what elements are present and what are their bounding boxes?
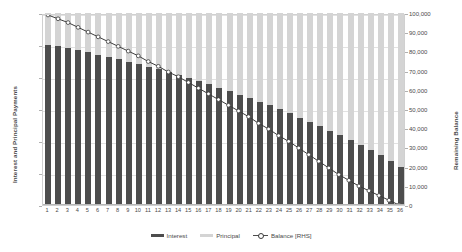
y-axis-right-tick-mark [405, 52, 408, 53]
balance-marker [176, 75, 180, 79]
y-axis-right-tick-mark [405, 187, 408, 188]
balance-marker [247, 115, 251, 119]
balance-marker [387, 198, 391, 202]
y-axis-right-tick-mark [405, 72, 408, 73]
y-axis-right-tick-mark [405, 129, 408, 130]
balance-marker [237, 109, 241, 113]
balance-marker [267, 127, 271, 131]
balance-marker [126, 49, 130, 53]
y-axis-right-tick-mark [405, 14, 408, 15]
plot-area [42, 14, 405, 206]
legend-swatch-interest-icon [151, 234, 164, 237]
legend-label: Interest [167, 232, 188, 239]
balance-marker [297, 146, 301, 150]
y-axis-right-title: Remaining Balance [452, 111, 459, 170]
balance-marker [76, 25, 80, 29]
balance-marker [287, 139, 291, 143]
y-axis-right-tick-label: 70,000 [409, 69, 462, 75]
y-axis-right-tick-mark [405, 148, 408, 149]
balance-marker [46, 15, 50, 17]
y-axis-right-tick-label: 80,000 [409, 49, 462, 55]
balance-marker [327, 166, 331, 170]
balance-marker [136, 54, 140, 58]
balance-marker [197, 86, 201, 90]
legend-label: Principal [216, 232, 240, 239]
balance-marker [106, 40, 110, 44]
balance-marker [116, 44, 120, 48]
x-axis-tick-label: 36 [392, 208, 408, 214]
balance-marker [166, 70, 170, 74]
y-axis-left-title: Interest and Principal Payments [11, 86, 18, 183]
balance-marker [156, 64, 160, 68]
y-axis-right-tick-mark [405, 33, 408, 34]
balance-marker [317, 159, 321, 163]
balance-marker [277, 134, 281, 138]
y-axis-right-tick-mark [405, 110, 408, 111]
y-axis-right-tick-label: 30,000 [409, 145, 462, 151]
y-axis-right-tick-mark [405, 91, 408, 92]
balance-marker [257, 121, 261, 125]
y-axis-right-tick-label: 20,000 [409, 165, 462, 171]
y-axis-right-tick-label: 50,000 [409, 107, 462, 113]
y-axis-right-tick-label: 10,000 [409, 184, 462, 190]
y-axis-right-tick-mark [405, 206, 408, 207]
balance-marker [66, 21, 70, 25]
balance-marker [146, 60, 150, 64]
y-axis-right-tick-label: 0 [409, 203, 462, 209]
balance-marker [337, 173, 341, 177]
balance-marker [96, 35, 100, 39]
balance-marker [367, 189, 371, 193]
y-axis-right-tick-label: 40,000 [409, 126, 462, 132]
y-axis-right-tick-label: 90,000 [409, 30, 462, 36]
legend-item[interactable]: Interest [151, 232, 188, 239]
balance-line [48, 15, 399, 205]
y-axis-left-tick-mark [39, 206, 42, 207]
balance-marker [86, 30, 90, 34]
balance-marker [56, 17, 60, 21]
legend-item[interactable]: Balance [RHS] [253, 232, 312, 239]
y-axis-right-tick-label: 60,000 [409, 88, 462, 94]
y-axis-right-tick-mark [405, 168, 408, 169]
balance-marker [357, 184, 361, 188]
balance-marker [217, 98, 221, 102]
y-axis-right-tick-label: 100,000 [409, 11, 462, 17]
legend-item[interactable]: Principal [200, 232, 240, 239]
balance-marker [227, 103, 231, 107]
chart-legend: InterestPrincipalBalance [RHS] [0, 232, 462, 239]
balance-line-layer [43, 15, 404, 205]
x-axis-baseline [43, 204, 404, 205]
balance-marker [377, 194, 381, 198]
legend-label: Balance [RHS] [271, 232, 312, 239]
balance-marker [207, 92, 211, 96]
legend-swatch-line-marker-icon [253, 233, 268, 238]
amortization-chart: Interest and Principal Payments Remainin… [0, 0, 462, 252]
legend-swatch-principal-icon [200, 234, 213, 237]
balance-marker [187, 81, 191, 85]
balance-marker [307, 153, 311, 157]
balance-marker [347, 178, 351, 182]
